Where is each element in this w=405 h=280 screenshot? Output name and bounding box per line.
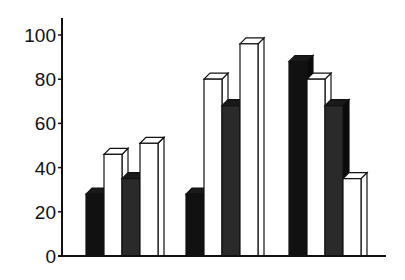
bars [86, 38, 367, 256]
bar [140, 137, 164, 256]
bar [343, 173, 367, 256]
bar-chart: 020406080100 [0, 0, 405, 280]
y-tick-label: 20 [35, 202, 56, 223]
bar-group [86, 137, 164, 256]
bar-group [186, 38, 264, 256]
bar-group [289, 56, 367, 256]
y-tick-label: 80 [35, 69, 56, 90]
bar [240, 38, 264, 256]
y-tick-label: 100 [24, 25, 56, 46]
y-tick-label: 40 [35, 158, 56, 179]
y-tick-label: 60 [35, 113, 56, 134]
y-axis: 020406080100 [24, 18, 62, 267]
y-tick-label: 0 [45, 246, 56, 267]
